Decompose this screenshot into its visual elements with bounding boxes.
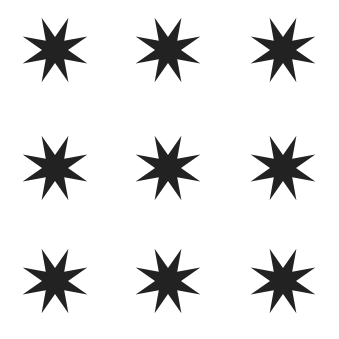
star-icon bbox=[136, 249, 201, 314]
star-icon bbox=[251, 136, 316, 201]
star-icon bbox=[23, 249, 88, 314]
star-icon bbox=[136, 136, 201, 201]
star-icon bbox=[23, 18, 88, 83]
star-icon bbox=[251, 18, 316, 83]
star-grid bbox=[0, 0, 339, 339]
star-icon bbox=[251, 249, 316, 314]
star-icon bbox=[23, 136, 88, 201]
star-icon bbox=[136, 18, 201, 83]
